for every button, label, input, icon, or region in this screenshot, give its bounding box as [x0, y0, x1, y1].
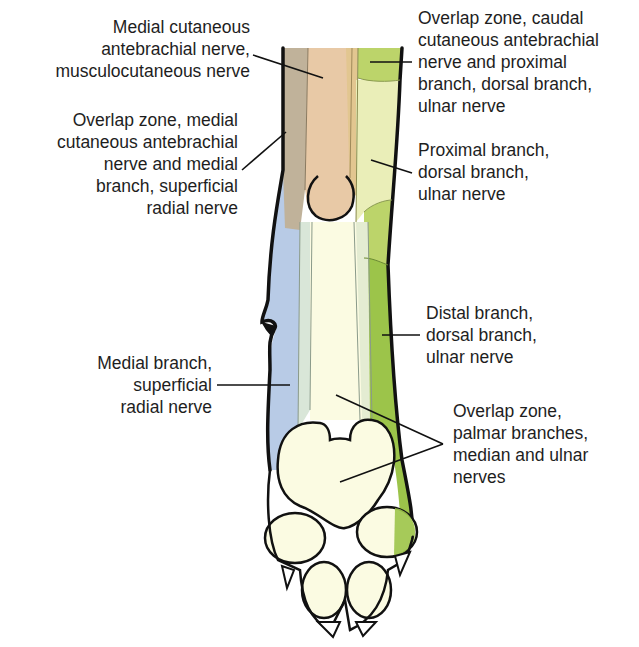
- region-overlap-medial: [283, 48, 308, 230]
- label-overlap-palmar: Overlap zone, palmar branches, median an…: [453, 400, 638, 488]
- claw-3: [356, 622, 376, 636]
- region-palmar-overlap: [310, 222, 362, 420]
- leader-overlap-medial: [242, 132, 286, 170]
- label-distal-branch: Distal branch, dorsal branch, ulnar nerv…: [426, 302, 636, 368]
- claw-4: [395, 552, 410, 575]
- claw-2: [318, 622, 340, 637]
- label-medial-cutaneous: Medial cutaneous antebrachial nerve, mus…: [8, 16, 250, 82]
- digital-pad-1: [265, 513, 325, 563]
- label-overlap-medial: Overlap zone, medial cutaneous antebrach…: [8, 109, 238, 219]
- label-overlap-caudal: Overlap zone, caudal cutaneous antebrach…: [418, 7, 638, 117]
- claw-1: [282, 566, 294, 588]
- region-ulnar-overlap-top: [358, 48, 402, 81]
- label-medial-branch: Medial branch, superficial radial nerve: [8, 352, 212, 418]
- nerve-diagram: Medial cutaneous antebrachial nerve, mus…: [0, 0, 639, 647]
- carpal-pad: [308, 176, 354, 220]
- label-proximal-branch: Proximal branch, dorsal branch, ulnar ne…: [418, 139, 638, 205]
